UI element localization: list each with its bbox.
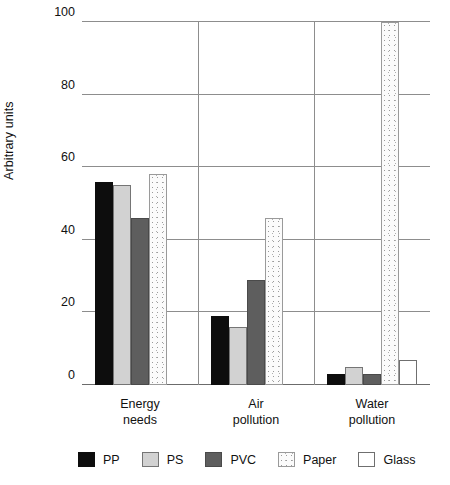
bar-pp <box>211 316 229 385</box>
bar-pvc <box>131 218 149 385</box>
y-axis-title: Arbitrary units <box>2 20 16 180</box>
bar-pp <box>95 182 113 385</box>
legend-item-glass: Glass <box>358 452 415 467</box>
bar-pvc <box>247 280 265 385</box>
bar-paper <box>265 218 283 385</box>
bar-ps <box>229 327 247 385</box>
bar-paper <box>149 174 167 385</box>
legend-item-ps: PS <box>142 452 184 467</box>
bar-ps <box>345 367 363 385</box>
bar-group <box>314 22 430 385</box>
legend-swatch-ps <box>142 452 159 467</box>
bar-pvc <box>363 374 381 385</box>
y-tick-label-80: 80 <box>61 78 75 94</box>
legend-label: Paper <box>303 453 336 467</box>
category-label-line: pollution <box>314 412 430 428</box>
y-tick-label-0: 0 <box>68 369 75 385</box>
legend-label: Glass <box>383 453 415 467</box>
bar-pp <box>327 374 345 385</box>
bar-group <box>82 22 198 385</box>
legend-item-pvc: PVC <box>205 452 256 467</box>
y-tick-label-60: 60 <box>61 151 75 167</box>
category-label-line: Energy <box>82 396 198 412</box>
bar-ps <box>113 185 131 385</box>
legend-swatch-paper <box>278 452 295 467</box>
legend-swatch-pp <box>78 452 95 467</box>
bar-group <box>198 22 314 385</box>
category-label-line: Water <box>314 396 430 412</box>
bar-glass <box>399 360 417 385</box>
category-label: Energyneeds <box>82 396 198 428</box>
legend-item-paper: Paper <box>278 452 336 467</box>
chart-legend: PPPSPVCPaperGlass <box>78 452 437 467</box>
category-label: Waterpollution <box>314 396 430 428</box>
legend-label: PVC <box>230 453 256 467</box>
legend-swatch-glass <box>358 452 375 467</box>
plot-area: 020406080100 <box>82 22 430 385</box>
y-tick-label-100: 100 <box>54 6 75 22</box>
legend-label: PP <box>103 453 120 467</box>
y-tick-label-20: 20 <box>61 296 75 312</box>
bar-paper <box>381 22 399 385</box>
y-tick-label-40: 40 <box>61 223 75 239</box>
legend-swatch-pvc <box>205 452 222 467</box>
category-label-line: Air <box>198 396 314 412</box>
category-label: Airpollution <box>198 396 314 428</box>
legend-label: PS <box>167 453 184 467</box>
category-label-line: needs <box>82 412 198 428</box>
category-label-line: pollution <box>198 412 314 428</box>
bar-chart: Arbitrary units 020406080100 Energyneeds… <box>0 0 450 485</box>
legend-item-pp: PP <box>78 452 120 467</box>
